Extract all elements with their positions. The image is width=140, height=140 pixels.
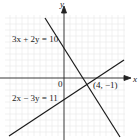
x-axis-label: x (132, 74, 137, 84)
graph-figure: y x 0 3x + 2y = 10 2x − 3y = 11 (4, −1) (0, 0, 140, 140)
origin-label: 0 (58, 79, 63, 89)
equation-label-line-1: 3x + 2y = 10 (12, 34, 59, 44)
intersection-label: (4, −1) (93, 80, 118, 90)
equation-label-line-2: 2x − 3y = 11 (12, 93, 58, 103)
y-axis-label: y (59, 0, 64, 9)
x-axis-arrow-icon (124, 76, 131, 81)
